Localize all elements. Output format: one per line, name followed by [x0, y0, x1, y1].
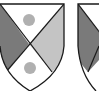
- roundel-chief-icon: [23, 14, 35, 26]
- shields-figure: [0, 0, 99, 91]
- shield-left: [0, 0, 66, 91]
- roundel-base-icon: [24, 62, 36, 74]
- shield-right-partial: [78, 0, 99, 91]
